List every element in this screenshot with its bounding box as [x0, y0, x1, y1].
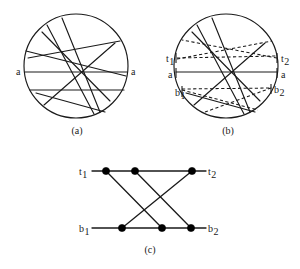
label-c-b2-base: b: [208, 223, 213, 234]
edge-cross-t2-b3: [135, 171, 191, 228]
label-a-left: a: [16, 66, 21, 77]
chord-b-b2-to-lower-left: [205, 88, 271, 112]
label-c-t1-subscript: 1: [82, 169, 87, 180]
panel-c: t1 t2 b1 b2 (c): [79, 166, 218, 256]
chord-b-b1-to-b2: [182, 88, 272, 89]
label-b2-subscript: 2: [279, 87, 284, 98]
panel-b: t1 t2 a a b1 b2 (b): [166, 14, 289, 137]
figure-canvas: a a (a): [0, 0, 300, 269]
caption-c: (c): [144, 244, 155, 256]
node-top-3: [188, 167, 195, 174]
panel-b-ticks: [176, 53, 277, 97]
chord-b-diagonal-down: [192, 32, 260, 101]
label-c-t2: t2: [208, 166, 216, 180]
label-c-b1-base: b: [79, 223, 84, 234]
figure-root: a a (a): [0, 0, 300, 269]
label-b-a-right: a: [281, 69, 286, 80]
label-b-a-left: a: [168, 69, 173, 80]
label-c-b2: b2: [208, 223, 218, 237]
label-t1-subscript: 1: [169, 56, 174, 67]
label-t2-subscript: 2: [284, 56, 289, 67]
edge-cross-t3-b1: [122, 171, 192, 228]
label-b2-base: b: [274, 84, 279, 95]
label-b1-base: b: [175, 87, 180, 98]
label-t1: t1: [166, 53, 174, 67]
label-c-b1-subscript: 1: [84, 226, 89, 237]
caption-b: (b): [222, 125, 234, 137]
node-top-2: [131, 167, 138, 174]
label-c-t1: t1: [79, 166, 87, 180]
edge-cross-t1-b2: [106, 171, 162, 228]
label-b1-subscript: 1: [180, 90, 185, 101]
node-top-1: [102, 167, 109, 174]
node-bottom-2: [158, 224, 165, 231]
panel-b-solid-chords: [176, 18, 277, 114]
label-c-b1: b1: [79, 223, 89, 237]
chord-a-diagonal-down: [42, 32, 110, 101]
label-a-right: a: [131, 66, 136, 77]
label-t2: t2: [281, 53, 289, 67]
label-c-b2-subscript: 2: [213, 226, 218, 237]
label-c-t2-subscript: 2: [211, 169, 216, 180]
panel-c-edges: [92, 171, 206, 228]
panel-c-labels: t1 t2 b1 b2: [79, 166, 218, 237]
chord-a-upper-slant-short: [28, 41, 120, 58]
caption-a: (a): [71, 125, 82, 137]
label-b1: b1: [175, 87, 185, 101]
panel-a: a a (a): [16, 14, 136, 137]
node-bottom-1: [118, 224, 125, 231]
label-b2: b2: [274, 84, 284, 98]
panel-a-chords: [25, 18, 127, 114]
panel-c-nodes: [102, 167, 195, 231]
node-bottom-3: [187, 224, 194, 231]
